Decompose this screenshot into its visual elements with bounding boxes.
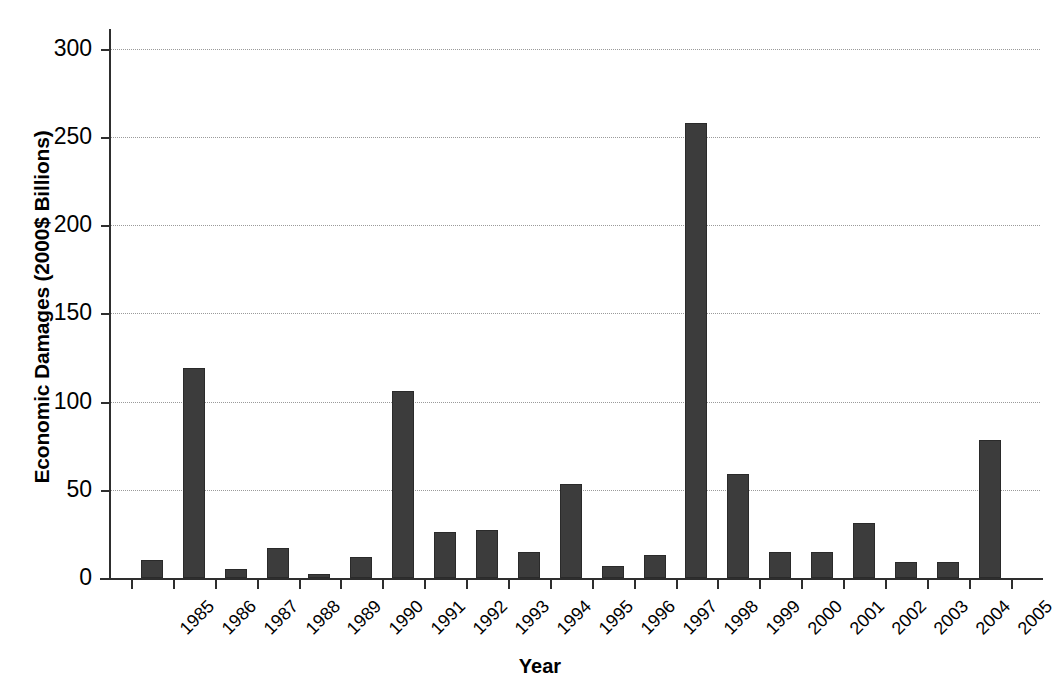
x-axis-tick-label: 1990 [385, 596, 428, 639]
x-axis-tick-label: 2004 [972, 596, 1015, 639]
x-axis-tick-mark [424, 580, 426, 589]
y-axis-tick-mark [101, 402, 110, 404]
x-axis-tick-mark [508, 580, 510, 589]
x-axis-tick-mark [340, 580, 342, 589]
x-axis-tick-mark [759, 580, 761, 589]
x-axis-tick-label: 1995 [595, 596, 638, 639]
x-axis-tick-label: 1987 [259, 596, 302, 639]
x-axis-tick-mark [592, 580, 594, 589]
x-axis-tick-mark [550, 580, 552, 589]
x-axis-ticks-layer: 1985198619871988198919901991199219931994… [0, 0, 1062, 694]
x-axis-tick-label: 2001 [846, 596, 889, 639]
x-axis-tick-label: 2003 [930, 596, 973, 639]
x-axis-tick-label: 1991 [427, 596, 470, 639]
y-axis-tick-mark [101, 578, 110, 580]
x-axis-tick-label: 1994 [553, 596, 596, 639]
y-axis-tick-mark [101, 225, 110, 227]
x-axis-tick-mark [843, 580, 845, 589]
x-axis-tick-mark [1011, 580, 1013, 589]
x-axis-tick-label: 1985 [176, 596, 219, 639]
x-axis-tick-mark [801, 580, 803, 589]
x-axis-tick-label: 1989 [343, 596, 386, 639]
x-axis-tick-label: 2005 [1013, 596, 1056, 639]
x-axis-tick-label: 1993 [511, 596, 554, 639]
x-axis-tick-mark [173, 580, 175, 589]
y-axis-tick-mark [101, 313, 110, 315]
x-axis-tick-mark [382, 580, 384, 589]
x-axis-tick-mark [885, 580, 887, 589]
x-axis-tick-label: 1997 [678, 596, 721, 639]
x-axis-tick-label: 1986 [218, 596, 261, 639]
x-axis-tick-label: 1996 [636, 596, 679, 639]
x-axis-tick-label: 1999 [762, 596, 805, 639]
x-axis-tick-mark [634, 580, 636, 589]
x-axis-title: Year [110, 655, 970, 678]
x-axis-tick-mark [257, 580, 259, 589]
y-axis-tick-mark [101, 490, 110, 492]
x-axis-tick-mark [215, 580, 217, 589]
x-axis-tick-mark [969, 580, 971, 589]
x-axis-tick-mark [927, 580, 929, 589]
y-axis-tick-mark [101, 49, 110, 51]
x-axis-tick-mark [676, 580, 678, 589]
x-axis-tick-mark [717, 580, 719, 589]
x-axis-tick-mark [299, 580, 301, 589]
x-axis-tick-label: 1992 [469, 596, 512, 639]
x-axis-tick-label: 1988 [301, 596, 344, 639]
x-axis-tick-label: 1998 [720, 596, 763, 639]
bar-chart: Economic Damages (2000$ Billions) 050100… [0, 0, 1062, 694]
x-axis-tick-label: 2000 [804, 596, 847, 639]
x-axis-tick-mark [466, 580, 468, 589]
y-axis-tick-mark [101, 137, 110, 139]
x-axis-tick-label: 2002 [888, 596, 931, 639]
x-axis-tick-mark [131, 580, 133, 589]
